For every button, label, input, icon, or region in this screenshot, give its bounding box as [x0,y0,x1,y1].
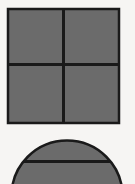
quartered-square-group [8,9,119,123]
diagram-svg [0,0,135,184]
figure-canvas [0,0,135,184]
